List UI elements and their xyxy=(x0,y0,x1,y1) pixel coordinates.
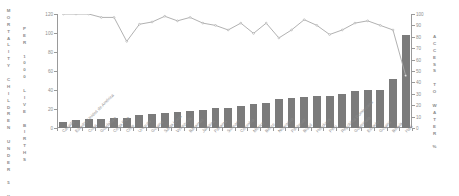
y-tick-label-right: 100 xyxy=(416,12,424,17)
y-tick-label-right: 40 xyxy=(416,80,421,85)
y-tick-right xyxy=(412,48,415,49)
chart-container: MORTALITY CHILDREN UNDER 5 YEARS PER 100… xyxy=(0,0,459,196)
line-point xyxy=(341,29,343,31)
line-point xyxy=(265,22,267,24)
line-point xyxy=(278,37,280,39)
y-tick-label-right: 20 xyxy=(416,103,421,108)
line-point xyxy=(329,34,331,36)
line-point xyxy=(392,29,394,31)
x-axis-category-labels: CanadáEstados Unidos de AméricaCubaGuada… xyxy=(57,130,412,196)
y-tick-right xyxy=(412,60,415,61)
line-point xyxy=(291,29,293,31)
line-point xyxy=(177,20,179,22)
y-tick-right xyxy=(412,105,415,106)
y-axis-title-primary: MORTALITY CHILDREN UNDER 5 YEARS xyxy=(6,8,11,196)
y-tick-right xyxy=(412,14,415,15)
y-tick-label-right: 50 xyxy=(416,69,421,74)
line-point xyxy=(379,25,381,27)
line-point xyxy=(405,75,407,77)
y-axis-title-right: ACCESS TO WATER % xyxy=(432,34,437,151)
line-point xyxy=(303,19,305,21)
y-axis-title-secondary: PER 1000 LIVE BIRTHS xyxy=(22,26,27,164)
line-point xyxy=(164,15,166,17)
y-tick-right xyxy=(412,25,415,26)
y-tick-right xyxy=(412,117,415,118)
y-tick-label-right: 60 xyxy=(416,57,421,62)
y-tick-label-right: 30 xyxy=(416,91,421,96)
line-point xyxy=(113,17,115,19)
line-point xyxy=(151,21,153,23)
y-tick-label-right: 70 xyxy=(416,46,421,51)
line-point xyxy=(316,25,318,27)
line-point xyxy=(62,14,64,15)
y-tick-right xyxy=(412,37,415,38)
line-point xyxy=(126,40,128,42)
line-point xyxy=(202,22,204,24)
line-point xyxy=(139,23,141,25)
y-tick-label-left: 80 xyxy=(48,50,53,55)
line-point xyxy=(240,22,242,24)
y-tick-label-right: 0 xyxy=(416,126,419,131)
y-tick-label-right: 90 xyxy=(416,23,421,28)
y-tick-right xyxy=(412,82,415,83)
line-point xyxy=(227,29,229,31)
line-point xyxy=(75,14,77,15)
y-tick-label-right: 80 xyxy=(416,34,421,39)
line-point xyxy=(88,14,90,15)
y-tick-label-left: 100 xyxy=(45,31,53,36)
y-tick-label-left: 20 xyxy=(48,107,53,112)
line-point xyxy=(215,25,217,27)
y-tick-label-right: 10 xyxy=(416,114,421,119)
y-tick-right xyxy=(412,94,415,95)
y-tick-label-left: 0 xyxy=(50,126,53,131)
line-point xyxy=(354,22,356,24)
y-tick-label-left: 120 xyxy=(45,12,53,17)
y-tick-right xyxy=(412,71,415,72)
line-point xyxy=(100,17,102,19)
y-tick-label-left: 40 xyxy=(48,88,53,93)
line-point xyxy=(367,20,369,22)
line-point xyxy=(189,17,191,19)
y-tick-label-left: 60 xyxy=(48,69,53,74)
line-point xyxy=(253,32,255,34)
